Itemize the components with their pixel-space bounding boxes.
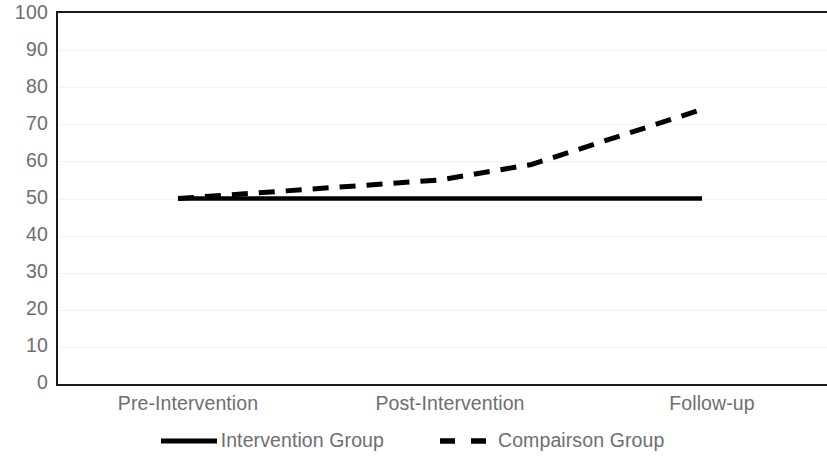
- plot-area: [56, 11, 827, 386]
- y-tick-label: 10: [0, 336, 48, 356]
- series-layer: [58, 13, 827, 384]
- chart-legend: Intervention Group Compairson Group: [0, 426, 825, 456]
- y-tick-label: 50: [0, 188, 48, 208]
- y-tick-label: 100: [0, 3, 48, 23]
- legend-swatch-dashed-line-icon: [438, 434, 494, 448]
- legend-swatch-solid-line-icon: [161, 434, 217, 448]
- y-tick-label: 40: [0, 225, 48, 245]
- y-tick-label: 70: [0, 114, 48, 134]
- legend-entry-intervention-group: Intervention Group: [161, 429, 384, 452]
- x-tick-label-follow-up: Follow-up: [669, 392, 754, 415]
- legend-label: Intervention Group: [221, 429, 384, 452]
- y-tick-label: 90: [0, 40, 48, 60]
- x-tick-label-post-intervention: Post-Intervention: [375, 392, 524, 415]
- series-line-compairson-group: [178, 109, 702, 198]
- y-tick-label: 20: [0, 299, 48, 319]
- y-axis: 100 90 80 70 60 50 40 30 20 10 0: [0, 0, 48, 460]
- legend-entry-compairson-group: Compairson Group: [438, 429, 664, 452]
- x-axis: Pre-Intervention Post-Intervention Follo…: [0, 392, 825, 420]
- y-tick-label: 80: [0, 77, 48, 97]
- y-tick-label: 0: [0, 373, 48, 393]
- x-tick-label-pre-intervention: Pre-Intervention: [118, 392, 258, 415]
- y-tick-label: 60: [0, 151, 48, 171]
- legend-label: Compairson Group: [498, 429, 664, 452]
- y-tick-label: 30: [0, 262, 48, 282]
